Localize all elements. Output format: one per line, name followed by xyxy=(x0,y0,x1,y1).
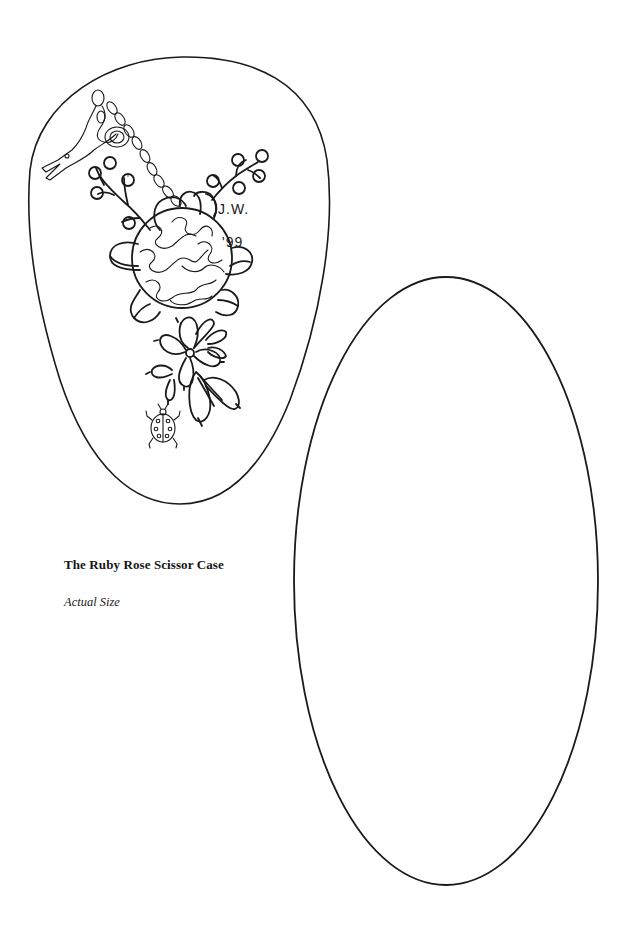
ladybug-icon xyxy=(146,404,180,448)
pattern-title: The Ruby Rose Scissor Case xyxy=(64,556,294,574)
pattern-sheet: J.W. '99 xyxy=(0,0,630,933)
initials-line-2: '99 xyxy=(222,234,243,250)
woven-rose xyxy=(132,208,232,308)
embroidery-design: J.W. '99 xyxy=(42,90,268,448)
five-petal-flower xyxy=(154,317,224,390)
right-berry-sprig xyxy=(207,150,268,200)
front-piece-outline xyxy=(29,57,330,504)
pattern-scale-note: Actual Size xyxy=(64,593,294,611)
caption-block: The Ruby Rose Scissor Case Actual Size xyxy=(64,556,294,611)
left-berry-sprig xyxy=(89,157,150,230)
left-buds xyxy=(146,366,175,405)
chain-cord xyxy=(105,100,183,208)
scissors-icon xyxy=(42,90,129,180)
back-piece-outline xyxy=(294,277,598,885)
rosebuds xyxy=(189,372,240,426)
initials-line-1: J.W. xyxy=(218,201,249,217)
